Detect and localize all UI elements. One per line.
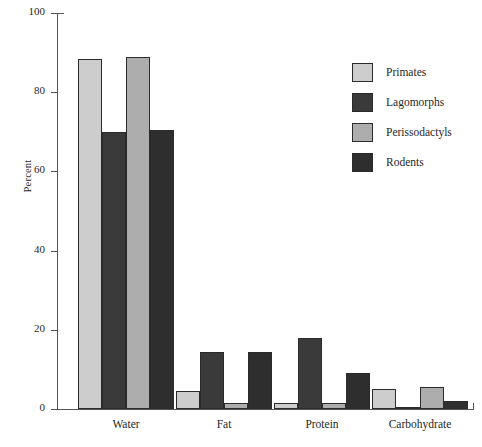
legend-item: Primates: [352, 57, 452, 87]
legend-item: Lagomorphs: [352, 87, 452, 117]
bar: [274, 403, 298, 409]
y-axis-tick-label: 100: [5, 5, 45, 17]
bar: [224, 403, 248, 409]
y-axis-tick: [51, 13, 58, 14]
y-axis-tick: [51, 171, 58, 172]
bar: [396, 407, 420, 409]
bar: [372, 389, 396, 409]
bar: [126, 57, 150, 409]
bar: [298, 338, 322, 409]
y-axis-tick: [51, 409, 58, 410]
legend-swatch-icon: [352, 63, 373, 82]
legend-label: Lagomorphs: [386, 96, 444, 108]
bar: [78, 59, 102, 409]
bar: [176, 391, 200, 409]
legend-item: Rodents: [352, 147, 452, 177]
y-axis-tick-label: 40: [5, 243, 45, 255]
x-axis-line: [57, 409, 474, 410]
legend: PrimatesLagomorphsPerissodactylsRodents: [352, 57, 452, 177]
y-axis-tick-label: 20: [5, 322, 45, 334]
bar-group: [78, 13, 174, 409]
y-axis-tick-label: 80: [5, 84, 45, 96]
y-axis-tick: [51, 251, 58, 252]
legend-swatch-icon: [352, 153, 373, 172]
legend-label: Perissodactyls: [386, 126, 452, 138]
bar: [200, 352, 224, 409]
bar: [346, 373, 370, 409]
bar: [102, 132, 126, 409]
y-axis-label: Percent: [22, 136, 33, 216]
bar: [322, 403, 346, 409]
x-axis-tick-label: Carbohydrate: [342, 418, 482, 430]
bar: [248, 352, 272, 409]
legend-item: Perissodactyls: [352, 117, 452, 147]
bar: [444, 401, 468, 409]
bar: [420, 387, 444, 409]
legend-label: Primates: [386, 66, 426, 78]
y-axis-tick: [51, 330, 58, 331]
legend-swatch-icon: [352, 123, 373, 142]
bar-chart: Percent 020406080100 WaterFatProteinCarb…: [0, 0, 482, 447]
bar: [150, 130, 174, 409]
y-axis-tick-label: 60: [5, 163, 45, 175]
y-axis-tick-label: 0: [5, 401, 45, 413]
bar-group: [176, 13, 272, 409]
legend-swatch-icon: [352, 93, 373, 112]
y-axis-tick: [51, 92, 58, 93]
legend-label: Rodents: [386, 156, 424, 168]
